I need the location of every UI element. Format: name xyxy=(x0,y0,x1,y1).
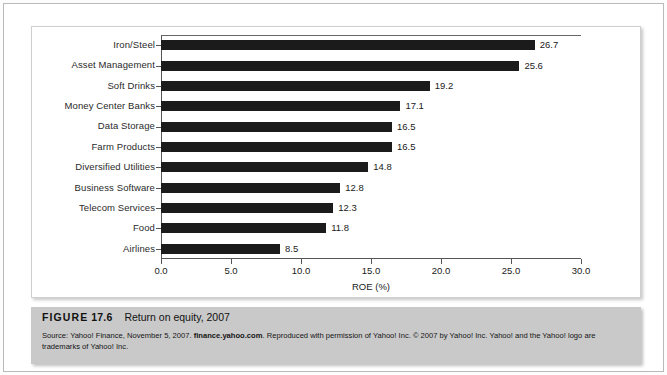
bar-chart: Iron/Steel26.7Asset Management25.6Soft D… xyxy=(32,27,642,299)
figure-source-note: Source: Yahoo! Finance, November 5, 2007… xyxy=(42,331,631,352)
x-axis-tick-label: 15.0 xyxy=(351,265,391,276)
source-prefix: Source: Yahoo! Finance, November 5, 2007… xyxy=(42,331,194,340)
category-label: Telecom Services xyxy=(32,198,155,218)
x-axis-tick xyxy=(231,259,232,264)
category-label: Money Center Banks xyxy=(32,96,155,116)
x-axis-tick-label: 0.0 xyxy=(141,265,181,276)
figure-caption-title: FIGURE 17.6 Return on equity, 2007 xyxy=(42,311,230,323)
x-axis-tick-label: 5.0 xyxy=(211,265,251,276)
bar-value-label: 12.8 xyxy=(345,183,364,193)
bar xyxy=(161,183,340,193)
bar xyxy=(161,162,368,172)
caption-description: Return on equity, 2007 xyxy=(124,311,229,323)
bar-value-label: 11.8 xyxy=(331,223,349,233)
chart-row: Iron/Steel26.7 xyxy=(32,35,642,55)
page-border: Iron/Steel26.7Asset Management25.6Soft D… xyxy=(3,3,664,372)
x-axis-tick xyxy=(581,259,582,264)
x-axis-tick xyxy=(371,259,372,264)
bar-value-label: 12.3 xyxy=(338,203,357,213)
source-link: finance.yahoo.com xyxy=(194,331,263,340)
caption-label: FIGURE xyxy=(42,311,88,323)
bar-value-label: 25.6 xyxy=(524,61,543,71)
bar xyxy=(161,40,535,50)
bar xyxy=(161,61,519,71)
bar-value-label: 26.7 xyxy=(540,40,559,50)
x-axis-title: ROE (%) xyxy=(161,281,581,292)
category-label: Airlines xyxy=(32,239,155,259)
x-axis-tick-label: 25.0 xyxy=(491,265,531,276)
chart-row: Soft Drinks19.2 xyxy=(32,76,642,96)
bar xyxy=(161,142,392,152)
chart-row: Food11.8 xyxy=(32,218,642,238)
caption-number: 17.6 xyxy=(91,311,112,323)
bar-value-label: 8.5 xyxy=(285,244,298,254)
category-label: Business Software xyxy=(32,178,155,198)
chart-row: Diversified Utilities14.8 xyxy=(32,157,642,177)
x-axis-tick xyxy=(301,259,302,264)
bar xyxy=(161,81,430,91)
chart-row: Data Storage16.5 xyxy=(32,116,642,136)
x-axis-tick-label: 20.0 xyxy=(421,265,461,276)
chart-row: Telecom Services12.3 xyxy=(32,198,642,218)
bar-value-label: 14.8 xyxy=(373,162,392,172)
category-label: Diversified Utilities xyxy=(32,157,155,177)
x-axis-tick xyxy=(511,259,512,264)
x-axis-tick xyxy=(161,259,162,264)
bar-value-label: 16.5 xyxy=(397,142,416,152)
x-axis-tick-label: 10.0 xyxy=(281,265,321,276)
chart-row: Farm Products16.5 xyxy=(32,137,642,157)
x-axis-tick-label: 30.0 xyxy=(561,265,601,276)
page-background: Iron/Steel26.7Asset Management25.6Soft D… xyxy=(0,0,667,375)
category-label: Data Storage xyxy=(32,116,155,136)
category-label: Soft Drinks xyxy=(32,76,155,96)
category-label: Iron/Steel xyxy=(32,35,155,55)
chart-row: Airlines8.5 xyxy=(32,239,642,259)
bar xyxy=(161,203,333,213)
bar-value-label: 17.1 xyxy=(405,101,424,111)
chart-row: Money Center Banks17.1 xyxy=(32,96,642,116)
bar-value-label: 16.5 xyxy=(397,122,416,132)
bar xyxy=(161,101,400,111)
chart-row: Business Software12.8 xyxy=(32,178,642,198)
bar xyxy=(161,244,280,254)
category-label: Asset Management xyxy=(32,55,155,75)
bar-value-label: 19.2 xyxy=(435,81,454,91)
figure-card: Iron/Steel26.7Asset Management25.6Soft D… xyxy=(31,26,641,298)
bar xyxy=(161,223,326,233)
figure-caption-band: FIGURE 17.6 Return on equity, 2007 Sourc… xyxy=(31,307,641,364)
category-label: Farm Products xyxy=(32,137,155,157)
bar xyxy=(161,122,392,132)
chart-row: Asset Management25.6 xyxy=(32,55,642,75)
category-label: Food xyxy=(32,218,155,238)
x-axis-tick xyxy=(441,259,442,264)
